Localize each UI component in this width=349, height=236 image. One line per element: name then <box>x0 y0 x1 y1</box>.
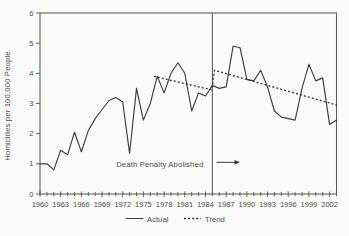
y-tick-label: 1 <box>29 159 33 168</box>
legend-actual-label: Actual <box>147 215 169 224</box>
y-tick-label: 3 <box>29 99 33 108</box>
y-axis-title: Homicides per 100,000 People <box>3 51 12 160</box>
x-tick-label: 1984 <box>197 200 214 209</box>
x-tick-label: 2002 <box>321 200 338 209</box>
x-tick-label: 1966 <box>73 200 90 209</box>
y-tick-label: 0 <box>29 190 33 199</box>
x-tick-label: 1990 <box>239 200 256 209</box>
homicide-rate-chart: 0123456196019631966196919721975197819811… <box>0 0 349 236</box>
trend-series-line <box>154 70 337 105</box>
x-tick-label: 1972 <box>114 200 131 209</box>
x-tick-label: 1978 <box>156 200 173 209</box>
x-tick-label: 1975 <box>135 200 152 209</box>
legend: Actual Trend <box>126 215 225 224</box>
annotation-death-penalty-abolished: Death Penalty Abolished <box>116 160 203 169</box>
x-tick-label: 1981 <box>176 200 193 209</box>
x-tick-label: 1996 <box>280 200 297 209</box>
axes: 0123456196019631966196919721975197819811… <box>29 9 338 209</box>
y-tick-label: 2 <box>29 129 33 138</box>
x-tick-label: 1993 <box>259 200 276 209</box>
annotation-arrow-head <box>234 160 240 165</box>
x-tick-label: 1960 <box>32 200 49 209</box>
x-tick-label: 1999 <box>301 200 318 209</box>
legend-trend-label: Trend <box>205 215 225 224</box>
x-tick-label: 1969 <box>94 200 111 209</box>
y-tick-label: 4 <box>29 69 33 78</box>
y-tick-label: 6 <box>29 9 33 18</box>
x-tick-label: 1963 <box>52 200 69 209</box>
actual-series-line <box>40 46 337 170</box>
x-tick-label: 1987 <box>218 200 235 209</box>
y-tick-label: 5 <box>29 39 33 48</box>
